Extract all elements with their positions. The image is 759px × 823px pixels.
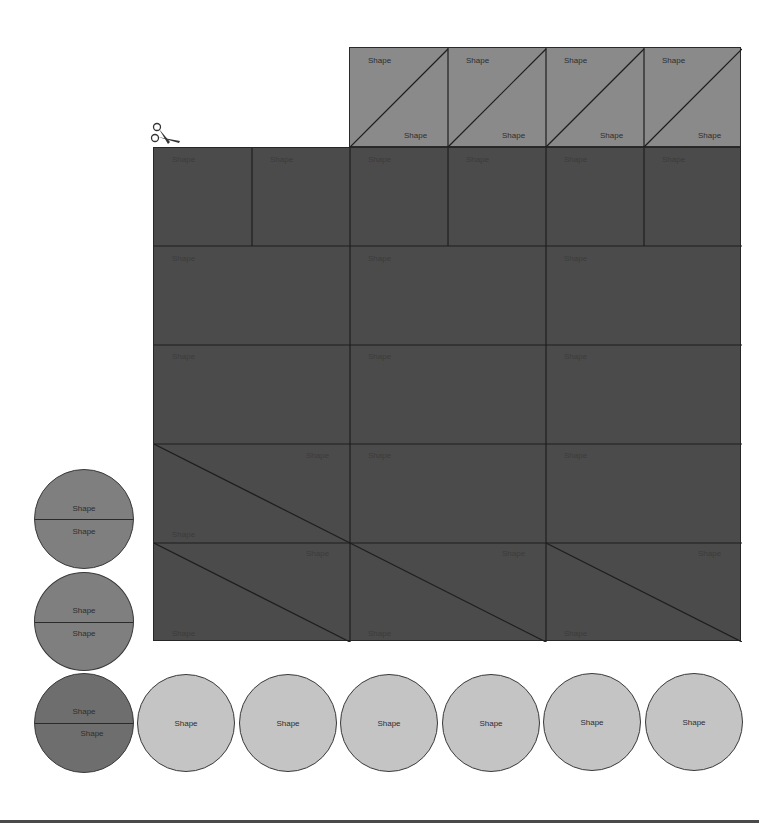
tile-label: Shape <box>564 254 587 263</box>
tile-label: Shape <box>172 530 195 539</box>
tile-label: Shape <box>564 155 587 164</box>
circle-label: Shape <box>341 719 437 728</box>
grid-tile-wide[interactable]: Shape <box>350 246 546 345</box>
circle-label: Shape <box>35 729 133 738</box>
circle-label: Shape <box>35 504 133 513</box>
circle-divider <box>35 519 133 520</box>
top-tile[interactable]: Shape Shape <box>546 48 644 148</box>
tile-label: Shape <box>564 451 587 460</box>
tile-label: Shape <box>306 451 329 460</box>
grid-tile-triangle[interactable]: Shape Shape <box>154 444 350 543</box>
grid-tile-wide[interactable]: Shape <box>350 444 546 543</box>
plain-circle[interactable]: Shape <box>239 674 337 772</box>
plain-circle[interactable]: Shape <box>137 674 235 772</box>
grid-tile-triangle[interactable]: Shape Shape <box>154 543 350 642</box>
grid-tile-triangle[interactable]: Shape Shape <box>350 543 546 642</box>
grid-tile-wide[interactable]: Shape <box>546 444 742 543</box>
circle-label: Shape <box>35 527 133 536</box>
tile-label: Shape <box>564 56 587 65</box>
tile-label: Shape <box>564 629 587 638</box>
grid-tile-wide[interactable]: Shape <box>154 345 350 444</box>
tile-label: Shape <box>404 131 427 140</box>
tile-label: Shape <box>306 549 329 558</box>
top-tile[interactable]: Shape Shape <box>350 48 448 148</box>
grid-tile-wide[interactable]: Shape <box>546 345 742 444</box>
grid-tile-triangle[interactable]: Shape Shape <box>546 543 742 642</box>
tile-label: Shape <box>270 155 293 164</box>
tile-label: Shape <box>368 254 391 263</box>
tile-label: Shape <box>368 451 391 460</box>
top-tile[interactable]: Shape Shape <box>448 48 546 148</box>
circle-label: Shape <box>646 718 742 727</box>
grid-tile-wide[interactable]: Shape <box>546 246 742 345</box>
tile-label: Shape <box>662 56 685 65</box>
tile-label: Shape <box>368 155 391 164</box>
split-circle[interactable]: Shape Shape <box>34 572 134 671</box>
top-row: Shape Shape Shape Shape Shape Shape Shap… <box>349 47 741 147</box>
tile-label: Shape <box>466 155 489 164</box>
circle-label: Shape <box>35 629 133 638</box>
tile-label: Shape <box>564 352 587 361</box>
split-circle[interactable]: Shape Shape <box>34 673 134 773</box>
tile-label: Shape <box>466 56 489 65</box>
plain-circle[interactable]: Shape <box>543 673 641 771</box>
circle-label: Shape <box>35 606 133 615</box>
grid-tile[interactable]: Shape <box>644 148 742 246</box>
grid-tile[interactable]: Shape <box>546 148 644 246</box>
tile-label: Shape <box>172 155 195 164</box>
tile-label: Shape <box>172 629 195 638</box>
circle-label: Shape <box>443 719 539 728</box>
scissors-icon <box>150 120 186 150</box>
tile-label: Shape <box>662 155 685 164</box>
plain-circle[interactable]: Shape <box>442 674 540 772</box>
circle-label: Shape <box>240 719 336 728</box>
tile-label: Shape <box>502 131 525 140</box>
tile-label: Shape <box>368 352 391 361</box>
tile-label: Shape <box>600 131 623 140</box>
circle-label: Shape <box>138 719 234 728</box>
plain-circle[interactable]: Shape <box>645 673 743 771</box>
tile-label: Shape <box>698 131 721 140</box>
circle-divider <box>35 723 133 724</box>
grid-tile[interactable]: Shape <box>448 148 546 246</box>
grid-tile[interactable]: Shape <box>350 148 448 246</box>
tile-label: Shape <box>172 254 195 263</box>
tile-label: Shape <box>368 56 391 65</box>
tile-label: Shape <box>502 549 525 558</box>
top-tile[interactable]: Shape Shape <box>644 48 742 148</box>
circle-divider <box>35 622 133 623</box>
circle-label: Shape <box>35 707 133 716</box>
tile-label: Shape <box>172 352 195 361</box>
grid-tile-wide[interactable]: Shape <box>154 246 350 345</box>
grid-tile-wide[interactable]: Shape <box>350 345 546 444</box>
tile-label: Shape <box>698 549 721 558</box>
tile-label: Shape <box>368 629 391 638</box>
main-grid: Shape Shape Shape Shape Shape Shape Shap… <box>153 147 741 641</box>
plain-circle[interactable]: Shape <box>340 674 438 772</box>
circle-label: Shape <box>544 718 640 727</box>
grid-tile[interactable]: Shape <box>252 148 350 246</box>
split-circle[interactable]: Shape Shape <box>34 469 134 569</box>
grid-tile[interactable]: Shape <box>154 148 252 246</box>
